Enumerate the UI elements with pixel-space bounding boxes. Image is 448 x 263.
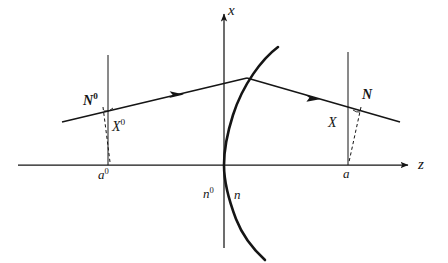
point-label-left-superscript: 0 [105, 166, 109, 176]
index-label-left: n0 [203, 186, 214, 200]
point-label-right: a [343, 167, 350, 180]
axis-label-x: x [228, 3, 235, 18]
point-label-left: a0 [98, 167, 109, 181]
refraction-diagram-figure: x z N0 N X0 X a0 a n0 n [0, 0, 448, 263]
incident-ray-arrowhead [169, 91, 184, 98]
normal-label-left-text: N [83, 93, 93, 108]
normal-dashed-right [349, 107, 361, 162]
axis-label-z: z [418, 157, 424, 172]
index-label-left-superscript: 0 [210, 185, 214, 195]
index-label-right: n [234, 188, 241, 201]
normal-dashed-left [103, 107, 110, 162]
normal-label-left: N0 [83, 92, 98, 108]
angle-label-left-superscript: 0 [121, 117, 126, 127]
angle-label-left: X0 [112, 118, 125, 134]
refracted-ray [247, 78, 400, 122]
diagram-canvas [0, 0, 448, 263]
normal-label-right: N [362, 88, 372, 102]
normal-label-left-superscript: 0 [93, 91, 98, 101]
angle-label-right: X [328, 116, 337, 130]
angle-label-left-text: X [112, 119, 121, 134]
